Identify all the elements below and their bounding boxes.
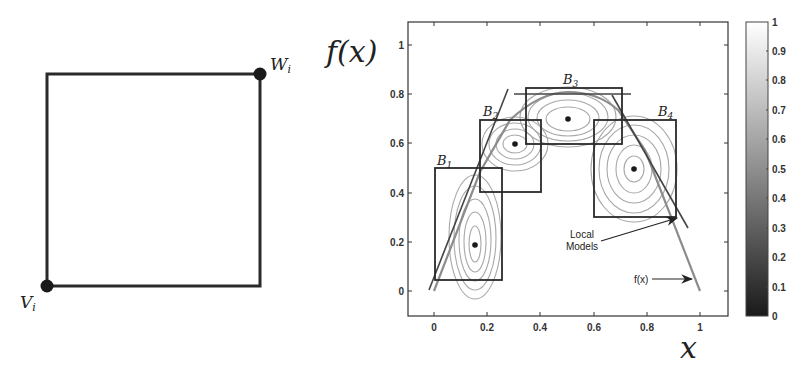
local-models-label-line2: Models	[566, 241, 598, 252]
svg-text:0.2: 0.2	[390, 237, 404, 248]
y-axis-label: f(x)	[324, 34, 377, 69]
vertex-w-label: Wi	[270, 54, 291, 76]
vertex-w-dot	[254, 68, 267, 81]
svg-text:0.6: 0.6	[390, 138, 404, 149]
svg-text:0: 0	[431, 322, 437, 333]
svg-text:0.1: 0.1	[772, 282, 786, 293]
svg-text:0.8: 0.8	[390, 89, 404, 100]
svg-text:0.4: 0.4	[772, 193, 786, 204]
svg-text:1: 1	[697, 322, 703, 333]
vertex-v-label: Vi	[20, 292, 36, 314]
center-b3-dot	[565, 116, 571, 122]
colorbar-tick-labels: 1 0.9 0.8 0.7 0.6 0.5 0.4 0.3 0.2 0.1 0	[772, 17, 786, 322]
svg-text:0.4: 0.4	[533, 322, 547, 333]
svg-text:0.4: 0.4	[390, 188, 404, 199]
center-b2-dot	[512, 141, 518, 147]
hyperrectangle-diagram: Vi Wi	[20, 54, 291, 314]
svg-text:0.5: 0.5	[772, 164, 786, 175]
svg-text:0.6: 0.6	[587, 322, 601, 333]
vertex-v-dot	[41, 280, 54, 293]
local-models-label-line1: Local	[570, 229, 594, 240]
y-axis-tick-labels: 0 0.2 0.4 0.6 0.8 1	[390, 40, 404, 297]
plot-frame	[408, 22, 728, 316]
svg-text:0.2: 0.2	[480, 322, 494, 333]
svg-text:0.2: 0.2	[772, 252, 786, 263]
svg-text:0: 0	[398, 286, 404, 297]
x-axis-tick-labels: 0 0.2 0.4 0.6 0.8 1	[431, 322, 703, 333]
svg-text:0.6: 0.6	[772, 134, 786, 145]
center-b4-dot	[631, 166, 637, 172]
fx-curve-label: f(x)	[634, 274, 648, 285]
colorbar: 1 0.9 0.8 0.7 0.6 0.5 0.4 0.3 0.2 0.1 0	[746, 17, 786, 322]
center-b1-dot	[472, 242, 478, 248]
svg-text:0.9: 0.9	[772, 46, 786, 57]
svg-text:0: 0	[772, 311, 778, 322]
svg-text:1: 1	[398, 40, 404, 51]
svg-text:0.8: 0.8	[640, 322, 654, 333]
hyperrectangle	[47, 74, 260, 286]
local-models-plot: 0 0.2 0.4 0.6 0.8 1 0 0.2 0.4 0.6 0.8 1 …	[324, 22, 728, 365]
x-axis-label: x	[680, 330, 697, 365]
svg-text:0.8: 0.8	[772, 75, 786, 86]
colorbar-gradient	[746, 22, 768, 316]
svg-text:0.7: 0.7	[772, 105, 786, 116]
svg-text:1: 1	[772, 17, 778, 28]
svg-text:0.3: 0.3	[772, 223, 786, 234]
